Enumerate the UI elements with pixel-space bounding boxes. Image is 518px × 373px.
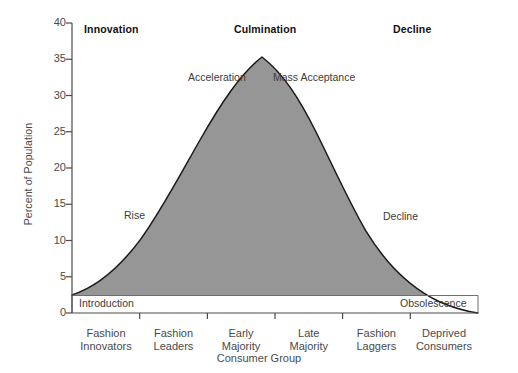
- y-tick-label-25: 25: [40, 126, 66, 137]
- y-tick-label-5: 5: [40, 271, 66, 282]
- annotation-mass-acceptance: Mass Acceptance: [273, 71, 355, 83]
- y-tick-label-35: 35: [40, 53, 66, 64]
- chart-canvas: [0, 0, 518, 373]
- annotation-decline: Decline: [383, 210, 418, 222]
- annotation-acceleration: Acceleration: [188, 71, 246, 83]
- y-tick-label-10: 10: [40, 235, 66, 246]
- y-tick-label-group: 0 5 10 15 20 25 30 35 40: [38, 0, 66, 373]
- fashion-adoption-curve-chart: 0 5 10 15 20 25 30 35 40 Percent of Popu…: [0, 0, 518, 373]
- adoption-area: [72, 57, 478, 313]
- y-tick-label-15: 15: [40, 198, 66, 209]
- annotation-obsolescence: Obsolescence: [400, 297, 467, 309]
- x-category-line-2: Consumers: [398, 340, 490, 353]
- y-tick-label-0: 0: [40, 307, 66, 318]
- y-tick-label-40: 40: [40, 17, 66, 28]
- y-axis-title: Percent of Population: [22, 94, 34, 254]
- stage-heading-culmination: Culmination: [234, 23, 296, 35]
- x-axis-title: Consumer Group: [0, 352, 518, 364]
- annotation-rise: Rise: [124, 209, 145, 221]
- x-axis-ticks: [140, 313, 411, 319]
- x-category-deprived-consumers: Deprived Consumers: [398, 327, 490, 352]
- stage-heading-innovation: Innovation: [84, 23, 139, 35]
- y-tick-label-30: 30: [40, 90, 66, 101]
- annotation-introduction: Introduction: [79, 297, 134, 309]
- y-axis-ticks: [66, 23, 72, 313]
- x-category-line-1: Deprived: [398, 327, 490, 340]
- y-tick-label-20: 20: [40, 162, 66, 173]
- stage-heading-decline: Decline: [393, 23, 431, 35]
